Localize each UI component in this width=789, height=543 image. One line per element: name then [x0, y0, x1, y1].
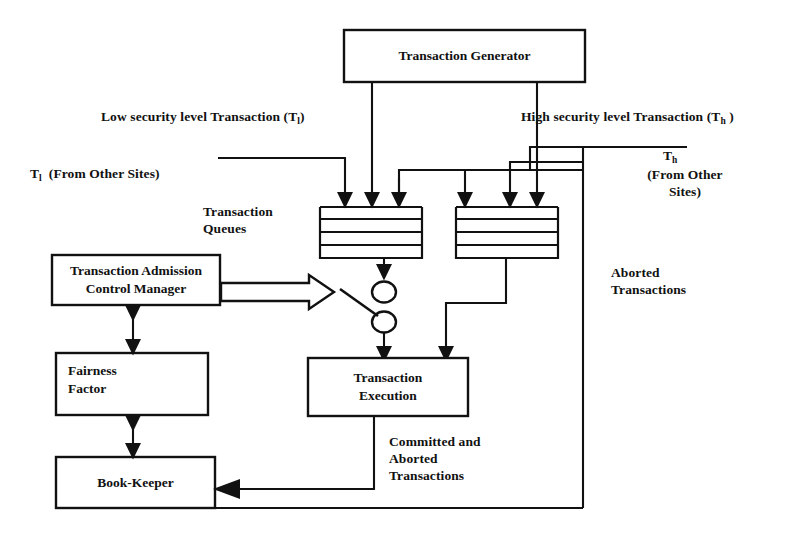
- high-security-tail: ): [726, 109, 734, 124]
- transaction-generator-label: Transaction Generator: [344, 47, 585, 65]
- low-security-text: Low security level Transaction (T: [101, 109, 297, 124]
- transaction-queue-low: [320, 207, 422, 258]
- tl-from-other-sites-label: Tl (From Other Sites): [30, 165, 160, 184]
- tl-tail: (From Other Sites): [42, 166, 160, 181]
- edge-execution-to-bookkeeper-arrowhead: [213, 479, 240, 499]
- switch-terminal-upper: [372, 282, 396, 303]
- low-security-tail: ): [300, 109, 305, 124]
- low-security-subscript: l: [297, 116, 300, 126]
- transaction-queues-label: Transaction Queues: [203, 203, 273, 237]
- high-security-text: High security level Transaction (T: [521, 109, 720, 124]
- transaction-admission-control-manager-label: Transaction Admission Control Manager: [52, 262, 220, 298]
- edge-high-queue-to-execution: [446, 258, 506, 354]
- diagram-canvas: Transaction Generator Low security level…: [0, 0, 789, 543]
- tl-subscript: l: [39, 173, 42, 183]
- edge-aborted-return-to-high-queue: [510, 162, 583, 200]
- tl-prefix: T: [30, 166, 39, 181]
- transaction-queue-high: [456, 207, 558, 258]
- edge-aborted-return-to-low-queue: [399, 170, 583, 200]
- low-security-transaction-label: Low security level Transaction (Tl): [101, 108, 305, 127]
- transaction-execution-label: Transaction Execution: [308, 369, 468, 405]
- committed-and-aborted-transactions-label: Committed and Aborted Transactions: [389, 433, 481, 484]
- hollow-block-arrow-icon: [221, 275, 334, 309]
- book-keeper-label: Book-Keeper: [56, 474, 215, 492]
- th-from-other-sites-label: (From Other Sites): [626, 166, 744, 200]
- edge-execution-to-bookkeeper: [236, 416, 374, 489]
- th-label: Th: [663, 147, 678, 166]
- edge-tl-other-sites-to-low-queue: [218, 158, 345, 200]
- toggle-switch-icon[interactable]: [340, 282, 396, 333]
- high-security-subscript: h: [720, 116, 725, 126]
- aborted-transactions-label: Aborted Transactions: [611, 264, 686, 298]
- th-subscript: h: [672, 155, 677, 165]
- fairness-factor-label: Fairness Factor: [68, 362, 208, 398]
- high-security-transaction-label: High security level Transaction (Th ): [521, 108, 734, 127]
- th-prefix: T: [663, 148, 672, 163]
